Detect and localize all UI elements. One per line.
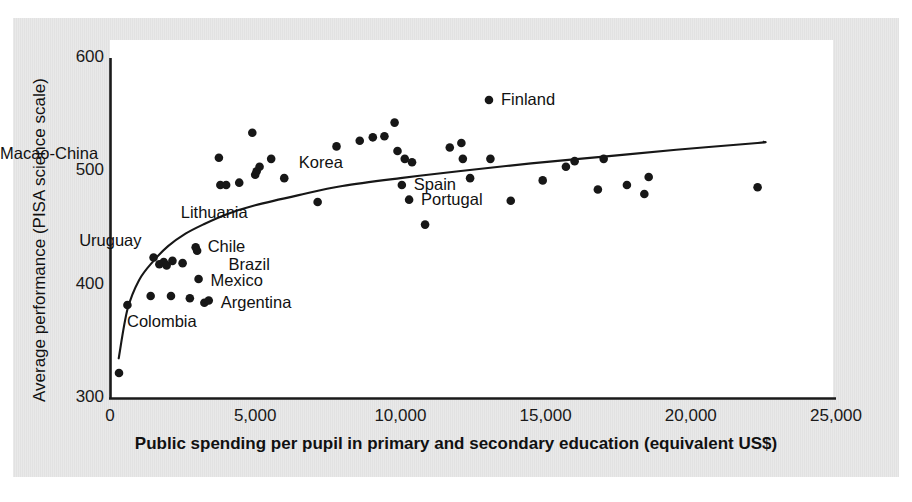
data-point <box>421 220 430 229</box>
data-point <box>623 181 632 190</box>
x-axis-title: Public spending per pupil in primary and… <box>0 434 912 454</box>
axis-lines <box>109 58 836 399</box>
data-point <box>115 369 124 378</box>
y-tick-400: 400 <box>76 274 104 294</box>
x-tick-15000: 15,000 <box>486 406 606 426</box>
data-point <box>485 96 494 105</box>
data-point <box>466 174 475 183</box>
data-point <box>369 133 378 142</box>
annotation-korea: Korea <box>201 153 441 172</box>
data-point <box>194 275 203 284</box>
data-point <box>380 132 389 141</box>
y-tick-500: 500 <box>76 160 104 180</box>
data-point <box>506 197 515 206</box>
data-point <box>599 155 608 164</box>
annotation-uruguay: Uruguay <box>0 231 142 250</box>
annotation-colombia: Colombia <box>42 312 282 331</box>
annotation-lithuania: Lithuania <box>94 203 334 222</box>
data-point <box>168 257 177 266</box>
data-point <box>332 142 341 151</box>
annotation-portugal: Portugal <box>421 190 482 209</box>
data-point <box>204 296 213 305</box>
x-tick-20000: 20,000 <box>631 406 751 426</box>
x-tick-25000: 25,000 <box>776 406 896 426</box>
chart-axes-and-data <box>0 0 912 502</box>
data-point <box>457 139 466 148</box>
data-point <box>538 176 547 185</box>
data-point <box>178 259 187 268</box>
data-point <box>562 163 571 172</box>
y-axis-title: Average performance (PISA science scale) <box>30 78 50 402</box>
annotation-mexico: Mexico <box>211 271 263 290</box>
data-point <box>405 195 414 204</box>
data-point <box>594 185 603 194</box>
data-point <box>222 181 231 190</box>
annotation-argentina: Argentina <box>221 293 292 312</box>
data-point <box>445 143 454 152</box>
data-point <box>753 183 762 192</box>
data-point <box>640 190 649 199</box>
data-point <box>390 118 399 127</box>
y-tick-300: 300 <box>76 387 104 407</box>
x-tick-0: 0 <box>50 406 170 426</box>
data-point <box>149 253 158 262</box>
chart-plot-wrapper: 300400500600 05,00010,00015,00020,00025,… <box>0 0 912 502</box>
data-point <box>146 292 155 301</box>
data-point <box>235 178 244 187</box>
data-point <box>398 181 407 190</box>
y-tick-600: 600 <box>76 47 104 67</box>
data-point <box>248 129 257 138</box>
annotation-finland: Finland <box>501 90 555 109</box>
annotation-chile: Chile <box>208 237 246 256</box>
data-point <box>280 174 289 183</box>
data-point <box>167 292 176 301</box>
data-point <box>186 294 195 303</box>
data-point <box>193 246 202 255</box>
x-tick-10000: 10,000 <box>340 406 460 426</box>
data-point <box>123 301 132 310</box>
data-point <box>486 155 495 164</box>
data-point <box>459 155 468 164</box>
data-point <box>355 136 364 145</box>
data-point <box>570 157 579 166</box>
data-point <box>644 173 653 182</box>
x-tick-5000: 5,000 <box>195 406 315 426</box>
